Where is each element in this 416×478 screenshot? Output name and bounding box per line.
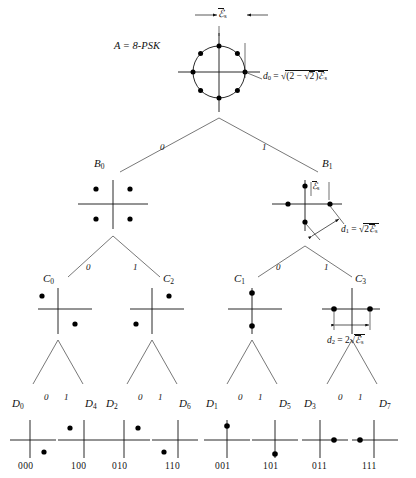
tree-branches-level-3 bbox=[33, 340, 377, 384]
constellation-C3 bbox=[322, 288, 380, 334]
branch-label-B1-0: 0 bbox=[276, 263, 281, 272]
constellation-C2 bbox=[130, 288, 184, 334]
node-label-D0: D0 bbox=[12, 398, 24, 410]
constellation-B0 bbox=[78, 180, 148, 229]
branch-label-C1-1: 1 bbox=[258, 393, 263, 402]
constellation-D3 bbox=[302, 420, 348, 458]
branch-label-C1-0: 0 bbox=[238, 393, 243, 402]
branch-label-B1-1: 1 bbox=[324, 263, 329, 272]
constellation-C1 bbox=[228, 288, 282, 334]
branch-label-C3-0: 0 bbox=[338, 393, 343, 402]
node-label-D2: D2 bbox=[106, 398, 118, 410]
node-label-C2: C2 bbox=[163, 273, 174, 285]
B1-energy-marker: ℰs bbox=[312, 181, 319, 191]
node-label-D3: D3 bbox=[304, 398, 316, 410]
node-label-C0: C0 bbox=[43, 273, 54, 285]
constellation-D7 bbox=[352, 420, 398, 458]
branch-label-B0-0: 0 bbox=[86, 263, 91, 272]
constellation-C0 bbox=[38, 288, 92, 334]
branch-label-C0-0: 0 bbox=[44, 393, 49, 402]
branch-label-C2-1: 1 bbox=[158, 393, 163, 402]
root-energy-marker: ℰs bbox=[218, 8, 227, 20]
branch-label-C0-1: 1 bbox=[64, 393, 69, 402]
branch-label-C3-1: 1 bbox=[358, 393, 363, 402]
branch-label-B0-1: 1 bbox=[133, 263, 138, 272]
code-label-D2: 010 bbox=[112, 462, 127, 472]
node-label-B0: B0 bbox=[94, 158, 104, 170]
branch-label-C2-0: 0 bbox=[138, 393, 143, 402]
code-label-D3: 011 bbox=[312, 462, 327, 472]
code-label-D1: 001 bbox=[215, 462, 230, 472]
node-label-D4: D4 bbox=[85, 398, 97, 410]
code-label-D5: 101 bbox=[263, 462, 278, 472]
code-label-D6: 110 bbox=[165, 462, 180, 472]
distance-label-d1: d1 = √2ℰs bbox=[341, 223, 379, 235]
constellation-D6 bbox=[152, 420, 198, 458]
constellation-D1 bbox=[204, 420, 250, 458]
node-label-D7: D7 bbox=[379, 398, 391, 410]
branch-label-A-1: 1 bbox=[262, 143, 267, 152]
root-label-A: A = 8-PSK bbox=[114, 41, 160, 52]
code-label-D0: 000 bbox=[18, 462, 33, 472]
distance-label-d0: d0 = √(2 − √2)ℰs bbox=[263, 70, 328, 82]
node-label-D5: D5 bbox=[279, 398, 291, 410]
constellation-D4 bbox=[58, 420, 104, 458]
node-label-D1: D1 bbox=[206, 398, 218, 410]
constellation-B1 bbox=[272, 180, 344, 240]
root-constellation-8psk bbox=[178, 15, 268, 112]
code-label-D4: 100 bbox=[71, 462, 86, 472]
figure-canvas: A = 8-PSK ℰs d0 = √(2 − √2)ℰs 0 1 B0 B1 … bbox=[0, 0, 416, 478]
branch-label-A-0: 0 bbox=[160, 143, 165, 152]
node-label-B1: B1 bbox=[322, 158, 332, 170]
distance-label-d2: d2 = 2√ℰs bbox=[327, 334, 365, 346]
constellation-D2 bbox=[104, 420, 150, 458]
code-label-D7: 111 bbox=[362, 462, 377, 472]
node-label-D6: D6 bbox=[179, 398, 191, 410]
constellation-D5 bbox=[252, 420, 298, 458]
tree-branches-level-2 bbox=[68, 236, 352, 277]
node-label-C1: C1 bbox=[234, 273, 245, 285]
tree-branches-level-1 bbox=[120, 118, 318, 172]
node-label-C3: C3 bbox=[355, 273, 366, 285]
constellation-D0 bbox=[10, 420, 56, 458]
